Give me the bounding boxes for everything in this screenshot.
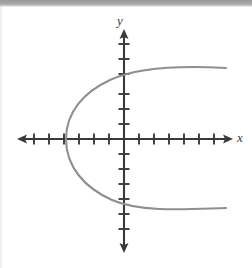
parabola-lower-branch	[66, 139, 226, 209]
parabola-upper-branch	[66, 67, 226, 139]
x-axis-label: x	[237, 131, 243, 144]
y-axis-label: y	[117, 14, 123, 27]
axes-group	[17, 29, 233, 253]
coordinate-plane-plot	[0, 0, 252, 268]
figure-root: y x	[0, 0, 252, 268]
